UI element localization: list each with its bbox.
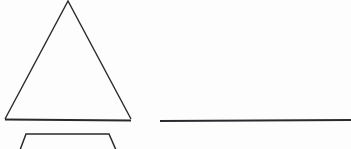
canvas-background (0, 0, 351, 149)
figure-svg (0, 0, 351, 149)
drawing-canvas (0, 0, 351, 149)
horizontal-line-segment (160, 120, 351, 121)
triangle-base-line (5, 120, 131, 121)
